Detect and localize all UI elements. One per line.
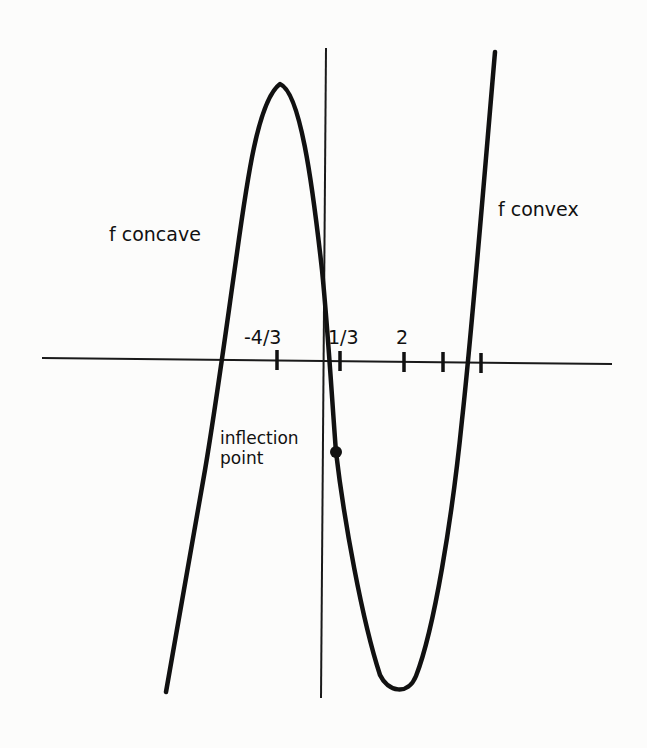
label-point: point bbox=[220, 449, 263, 468]
function-graph-figure: f concave f convex -4/3 1/3 2 inflection… bbox=[0, 0, 647, 748]
label-f-convex: f convex bbox=[498, 200, 579, 219]
tick-label-1-3: 1/3 bbox=[328, 328, 359, 347]
label-inflection: inflection bbox=[220, 429, 299, 448]
tick-label-minus-4-3: -4/3 bbox=[244, 328, 281, 347]
tick-label-2: 2 bbox=[396, 328, 408, 347]
graph-canvas bbox=[0, 0, 647, 748]
label-f-concave: f concave bbox=[109, 225, 201, 244]
inflection-point-marker bbox=[330, 446, 342, 458]
x-axis bbox=[42, 358, 612, 364]
function-curve bbox=[166, 52, 495, 692]
y-axis bbox=[321, 48, 326, 698]
